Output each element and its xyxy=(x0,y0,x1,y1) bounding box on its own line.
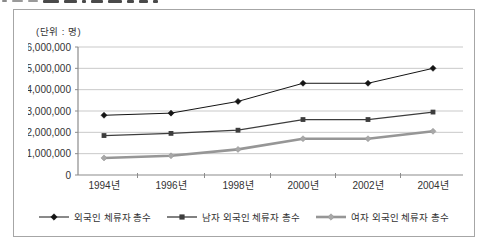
x-tick-label: 2004년 xyxy=(417,180,448,191)
chart-panel: (단위 : 명) 01,000,0002,000,0003,000,0004,0… xyxy=(13,9,475,237)
legend-label-male: 남자 외국인 체류자 총수 xyxy=(202,210,300,224)
series-marker xyxy=(300,80,306,86)
series-marker xyxy=(430,65,436,71)
line-chart: 01,000,0002,000,0003,000,0004,000,0005,0… xyxy=(28,36,470,196)
series-marker xyxy=(235,98,241,104)
legend-label-total: 외국인 체류자 총수 xyxy=(74,210,151,224)
legend-label-female: 여자 외국인 체류자 총수 xyxy=(351,210,449,224)
series-marker xyxy=(101,112,107,118)
series-marker xyxy=(235,146,241,152)
series-marker xyxy=(51,214,57,220)
series-marker xyxy=(366,117,371,122)
y-tick-label: 6,000,000 xyxy=(28,42,71,53)
x-tick-label: 1998년 xyxy=(222,180,253,191)
series-marker xyxy=(365,136,371,142)
legend-marker-total-icon xyxy=(39,212,69,222)
y-tick-label: 0 xyxy=(65,170,71,181)
series-marker xyxy=(301,117,306,122)
series-marker xyxy=(236,128,241,133)
series-marker xyxy=(365,80,371,86)
legend-item-total: 외국인 체류자 총수 xyxy=(39,210,151,224)
y-tick-label: 2,000,000 xyxy=(28,127,71,138)
y-tick-label: 3,000,000 xyxy=(28,106,71,117)
legend-item-male: 남자 외국인 체류자 총수 xyxy=(167,210,300,224)
y-tick-label: 1,000,000 xyxy=(28,148,71,159)
series-marker xyxy=(300,136,306,142)
legend-item-female: 여자 외국인 체류자 총수 xyxy=(316,210,449,224)
series-marker xyxy=(102,133,107,138)
series-line-0 xyxy=(104,68,433,115)
chart-legend: 외국인 체류자 총수 남자 외국인 체류자 총수 여자 외국인 체류자 총수 xyxy=(14,206,474,228)
cropped-title-fragment xyxy=(2,0,158,4)
y-tick-label: 5,000,000 xyxy=(28,63,71,74)
legend-marker-female-icon xyxy=(316,212,346,222)
x-tick-label: 2002년 xyxy=(352,180,383,191)
x-tick-label: 1994년 xyxy=(88,180,119,191)
series-marker xyxy=(430,128,436,134)
series-marker xyxy=(101,155,107,161)
x-tick-label: 2000년 xyxy=(287,180,318,191)
series-marker xyxy=(169,131,174,136)
series-marker xyxy=(431,110,436,115)
x-tick-label: 1996년 xyxy=(155,180,186,191)
series-marker xyxy=(180,214,185,219)
series-marker xyxy=(328,214,334,220)
legend-marker-male-icon xyxy=(167,212,197,222)
y-tick-label: 4,000,000 xyxy=(28,84,71,95)
